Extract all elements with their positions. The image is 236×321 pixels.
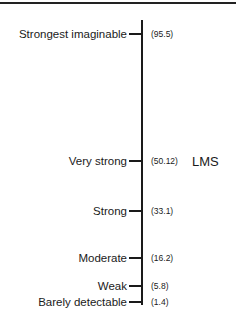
top-border-rule — [0, 2, 236, 4]
scale-label: Moderate — [78, 252, 127, 264]
scale-axis — [141, 20, 143, 305]
scale-tick — [129, 257, 142, 259]
scale-name-label: LMS — [192, 154, 219, 169]
scale-tick — [129, 285, 142, 287]
scale-tick — [129, 210, 142, 212]
scale-label: Very strong — [69, 155, 127, 167]
scale-value: (33.1) — [151, 206, 173, 216]
scale-label: Weak — [98, 280, 127, 292]
scale-value: (16.2) — [151, 253, 173, 263]
scale-tick — [129, 160, 142, 162]
scale-label: Strong — [93, 205, 127, 217]
scale-value: (50.12) — [151, 156, 178, 166]
scale-tick — [129, 33, 142, 35]
scale-value: (95.5) — [151, 29, 173, 39]
scale-label: Strongest imaginable — [19, 28, 127, 40]
scale-label: Barely detectable — [38, 296, 127, 308]
scale-value: (5.8) — [151, 281, 168, 291]
scale-tick — [129, 301, 142, 303]
scale-value: (1.4) — [151, 297, 168, 307]
